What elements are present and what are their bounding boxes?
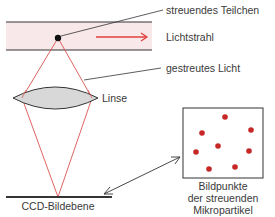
label-lens: Linse — [102, 92, 127, 104]
image-point-dot-icon — [248, 127, 254, 133]
image-point-dot-icon — [215, 143, 221, 149]
image-point-dot-icon — [199, 130, 205, 136]
scattering-particle-icon — [55, 35, 61, 41]
caption-line-3: Mikropartikel — [173, 204, 273, 216]
label-scattered-light: gestreutes Licht — [166, 62, 240, 74]
light-beam-band — [6, 22, 152, 50]
double-arrow-icon — [104, 157, 180, 194]
image-point-dot-icon — [246, 148, 252, 154]
image-point-dot-icon — [222, 114, 228, 120]
label-image-points: Bildpunkte der streuenden Mikropartikel — [173, 180, 273, 216]
scattered-light-rays — [22, 38, 92, 197]
label-ccd-plane: CCD-Bildebene — [8, 200, 108, 212]
image-point-dot-icon — [206, 166, 212, 172]
image-point-dot-icon — [193, 149, 199, 155]
label-light-beam: Lichtstrahl — [166, 31, 214, 43]
scattered-light-leader-line — [84, 68, 161, 80]
caption-line-1: Bildpunkte — [173, 180, 273, 192]
label-scattering-particle: streuendes Teilchen — [166, 4, 259, 16]
image-point-dot-icon — [232, 164, 238, 170]
caption-line-2: der streuenden — [173, 192, 273, 204]
